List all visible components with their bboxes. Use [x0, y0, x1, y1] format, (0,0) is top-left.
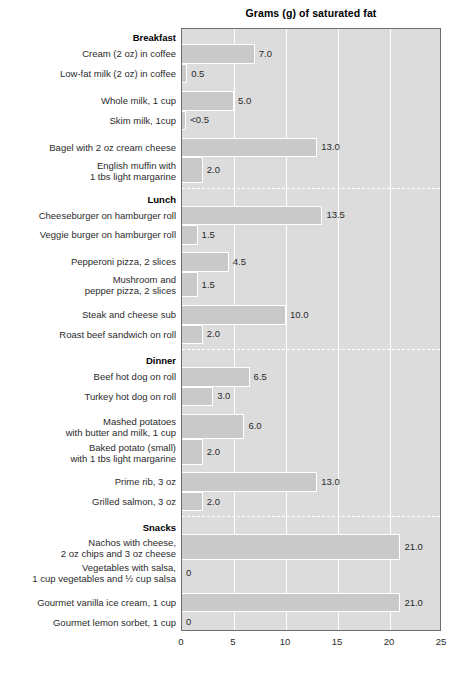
bar: [182, 325, 203, 345]
bar: [182, 534, 400, 559]
bar: [182, 252, 229, 272]
category-label: Prime rib, 3 oz: [0, 476, 176, 487]
bar: [182, 272, 198, 297]
bar-row: 7.0: [182, 44, 440, 64]
bar-value-label: 2.0: [207, 497, 220, 507]
section-separator: [182, 516, 440, 517]
saturated-fat-bar-chart: Grams (g) of saturated fat BreakfastCrea…: [0, 0, 454, 678]
category-label: Roast beef sandwich on roll: [0, 329, 176, 340]
category-label: Beef hot dog on roll: [0, 371, 176, 382]
bar-value-label: 4.5: [233, 257, 246, 267]
bar-value-label: 2.0: [207, 447, 220, 457]
section-heading-lunch: Lunch: [0, 194, 176, 205]
x-axis-tick-label: 15: [322, 636, 352, 647]
bar-value-label: 1.5: [202, 280, 215, 290]
bar: [182, 367, 250, 387]
category-label: Veggie burger on hamburger roll: [0, 229, 176, 240]
bar-value-label: 21.0: [404, 542, 423, 552]
x-axis-tick-label: 5: [218, 636, 248, 647]
bar-value-label: 0.5: [191, 69, 204, 79]
bar-row: 5.0: [182, 91, 440, 111]
bar: [182, 157, 203, 182]
bar-value-label: 0: [186, 617, 191, 627]
category-label: Cheeseburger on hamburger roll: [0, 210, 176, 221]
bar-value-label: 2.0: [207, 165, 220, 175]
bar-value-label: 6.5: [254, 372, 267, 382]
bar: [182, 206, 322, 226]
category-label: Steak and cheese sub: [0, 309, 176, 320]
category-label: Gourmet lemon sorbet, 1 cup: [0, 617, 176, 628]
bar-value-label: 2.0: [207, 330, 220, 340]
bar-row: 6.0: [182, 414, 440, 439]
bar-row: 13.0: [182, 138, 440, 158]
bar-row: 2.0: [182, 325, 440, 345]
bar: [182, 593, 400, 613]
bar-row: 13.5: [182, 206, 440, 226]
category-label: Low-fat milk (2 oz) in coffee: [0, 68, 176, 79]
chart-title: Grams (g) of saturated fat: [181, 7, 441, 19]
category-label: Baked potato (small) with 1 tbs light ma…: [0, 442, 176, 464]
x-axis-tick-label: 0: [166, 636, 196, 647]
bar-value-label: 7.0: [259, 49, 272, 59]
bar: [182, 387, 213, 407]
bar-row: 2.0: [182, 439, 440, 464]
bar-value-label: 3.0: [217, 392, 230, 402]
plot-area: 7.00.55.0<0.513.02.013.51.54.51.510.02.0…: [181, 28, 441, 631]
x-axis-tick-label: 25: [426, 636, 454, 647]
bar-row: 2.0: [182, 157, 440, 182]
bar-value-label: 10.0: [290, 310, 309, 320]
category-label: Pepperoni pizza, 2 slices: [0, 256, 176, 267]
bar-value-label: 0: [186, 568, 191, 578]
category-label: Nachos with cheese, 2 oz chips and 3 oz …: [0, 537, 176, 559]
bar-row: 2.0: [182, 492, 440, 512]
bar-value-label: 1.5: [202, 230, 215, 240]
category-label-column: BreakfastCream (2 oz) in coffeeLow-fat m…: [0, 28, 176, 631]
category-label: Whole milk, 1 cup: [0, 95, 176, 106]
category-label: Grilled salmon, 3 oz: [0, 496, 176, 507]
bar-row: 21.0: [182, 534, 440, 559]
category-label: Bagel with 2 oz cream cheese: [0, 142, 176, 153]
x-axis-tick-label: 20: [374, 636, 404, 647]
bar-row: 0: [182, 560, 440, 585]
bar-row: 1.5: [182, 272, 440, 297]
category-label: Gourmet vanilla ice cream, 1 cup: [0, 597, 176, 608]
bar: [182, 492, 203, 512]
section-separator: [182, 188, 440, 189]
bar-value-label: 13.0: [321, 143, 340, 153]
category-label: Cream (2 oz) in coffee: [0, 48, 176, 59]
section-heading-dinner: Dinner: [0, 355, 176, 366]
category-label: Mashed potatoes with butter and milk, 1 …: [0, 416, 176, 438]
bar: [182, 225, 198, 245]
bar-row: 21.0: [182, 593, 440, 613]
bar-value-label: 13.5: [326, 211, 345, 221]
bar-row: 3.0: [182, 387, 440, 407]
bar-row: 13.0: [182, 472, 440, 492]
section-separator: [182, 349, 440, 350]
bar: [182, 138, 317, 158]
category-label: Turkey hot dog on roll: [0, 391, 176, 402]
bar: [182, 472, 317, 492]
bar-row: 4.5: [182, 252, 440, 272]
bar: [182, 111, 186, 131]
bar-row: 10.0: [182, 305, 440, 325]
bar-value-label: <0.5: [190, 116, 209, 126]
category-label: Vegetables with salsa, 1 cup vegetables …: [0, 562, 176, 584]
category-label: English muffin with 1 tbs light margarin…: [0, 160, 176, 182]
bar: [182, 305, 286, 325]
bar-value-label: 5.0: [238, 96, 251, 106]
bar-row: 6.5: [182, 367, 440, 387]
section-heading-breakfast: Breakfast: [0, 32, 176, 43]
bar-row: 0.5: [182, 64, 440, 84]
bar: [182, 91, 234, 111]
bar-value-label: 13.0: [321, 477, 340, 487]
bar-row: <0.5: [182, 111, 440, 131]
bar-value-label: 6.0: [248, 422, 261, 432]
bar: [182, 439, 203, 464]
x-axis-tick-label: 10: [270, 636, 300, 647]
bar: [182, 44, 255, 64]
bar: [182, 64, 187, 84]
category-label: Mushroom and pepper pizza, 2 slices: [0, 274, 176, 296]
bar-row: 1.5: [182, 225, 440, 245]
category-label: Skim milk, 1cup: [0, 115, 176, 126]
bar-value-label: 21.0: [404, 598, 423, 608]
